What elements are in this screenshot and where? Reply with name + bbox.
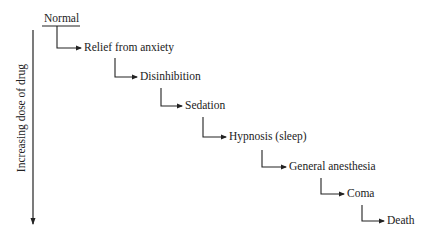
connector-lines: [0, 0, 433, 240]
state-hypnosis: Hypnosis (sleep): [229, 131, 307, 143]
state-disinhibition: Disinhibition: [140, 71, 201, 83]
state-relief-from-anxiety: Relief from anxiety: [84, 42, 174, 54]
state-death: Death: [387, 215, 414, 227]
drug-dose-diagram: Increasing dose of drug Normal Relief fr…: [0, 0, 433, 240]
state-sedation: Sedation: [185, 100, 225, 112]
state-coma: Coma: [347, 188, 374, 200]
state-normal: Normal: [44, 13, 79, 25]
axis-label: Increasing dose of drug: [16, 64, 28, 172]
state-general-anesthesia: General anesthesia: [289, 161, 376, 173]
